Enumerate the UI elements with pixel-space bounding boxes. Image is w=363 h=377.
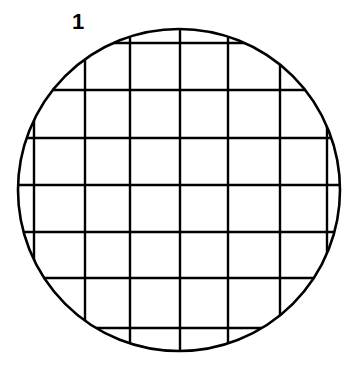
- figure-number-label: 1: [72, 11, 84, 33]
- figure-background: [0, 0, 363, 377]
- gridded-circle-diagram: [0, 0, 363, 377]
- figure-panel: 1: [0, 0, 363, 377]
